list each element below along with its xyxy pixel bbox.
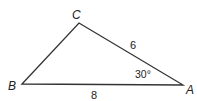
triangle-abc [22,23,183,85]
triangle-diagram: C B A 6 8 30° [0,0,197,101]
vertex-label-c: C [72,8,81,22]
side-label-ba: 8 [91,89,97,101]
vertex-label-a: A [185,83,194,97]
side-label-ca: 6 [130,39,136,51]
angle-label-a: 30° [135,68,151,80]
vertex-label-b: B [8,79,16,93]
